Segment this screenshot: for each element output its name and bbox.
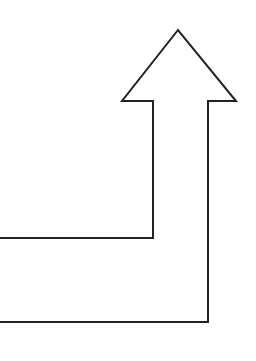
bent-arrow-outline	[0, 30, 236, 322]
bent-arrow-icon	[0, 0, 256, 361]
diagram-canvas	[0, 0, 256, 361]
